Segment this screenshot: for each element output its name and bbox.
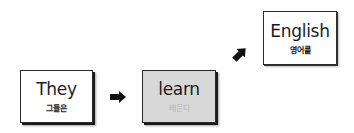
- card-they: They 그들은: [20, 70, 93, 123]
- arrow-right-icon: [110, 91, 126, 103]
- card-word: English: [270, 21, 329, 41]
- card-gloss: 그들은: [46, 103, 67, 114]
- card-learn: learn 배운다: [142, 70, 216, 123]
- card-word: They: [36, 79, 76, 99]
- card-gloss: 영어를: [290, 45, 311, 56]
- arrow-up-right-icon: [232, 46, 248, 62]
- word-order-diagram: They 그들은 learn 배운다 English 영어를: [0, 0, 354, 133]
- card-gloss: 배운다: [169, 103, 190, 114]
- card-english: English 영어를: [263, 11, 337, 65]
- card-word: learn: [158, 79, 200, 99]
